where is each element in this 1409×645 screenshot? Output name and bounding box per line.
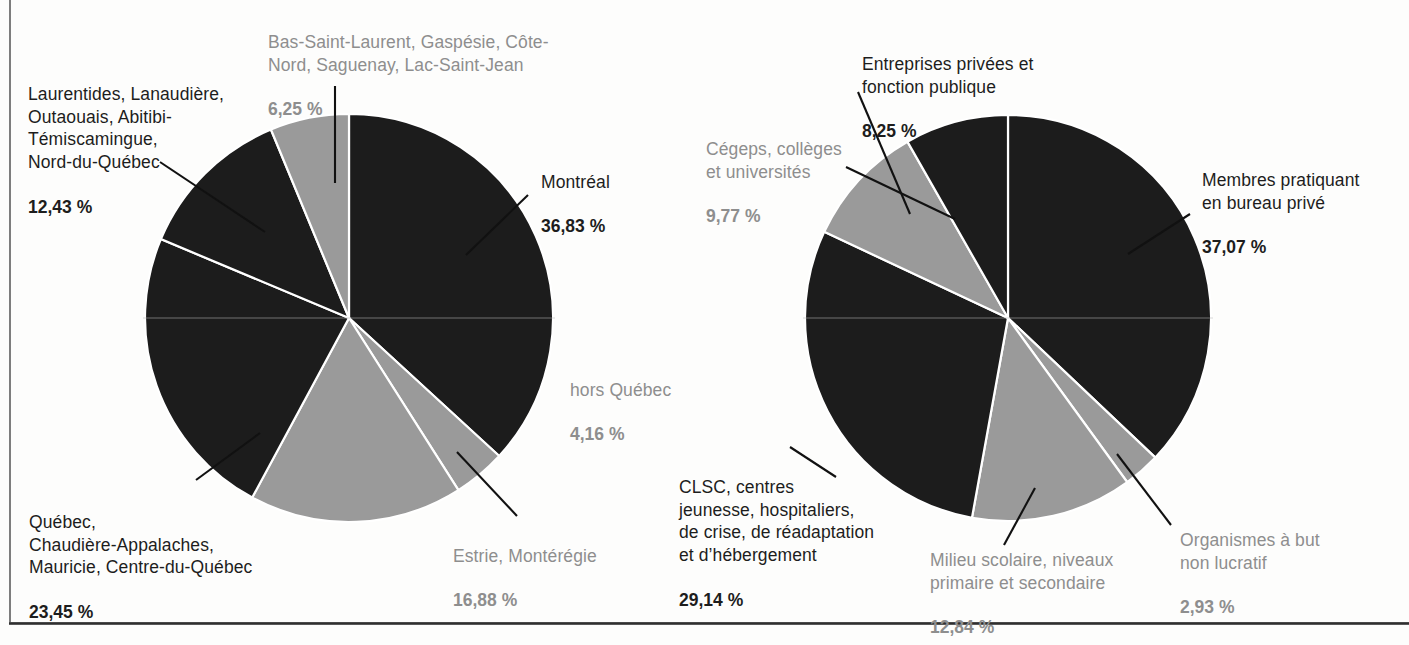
label-hors-quebec-pct: 4,16 %: [570, 423, 740, 446]
label-bas-saint-laurent-name: Bas-Saint-Laurent, Gaspésie, Côte- Nord,…: [268, 31, 588, 77]
label-estrie-name: Estrie, Montérégie: [453, 545, 683, 568]
label-cegeps: Cégeps, collèges et universités 9,77 %: [706, 117, 886, 249]
label-bureau-prive: Membres pratiquant en bureau privé 37,07…: [1202, 148, 1409, 280]
label-laurentides-name: Laurentides, Lanaudière, Outaouais, Abit…: [28, 83, 268, 174]
label-quebec-name: Québec, Chaudière-Appalaches, Mauricie, …: [29, 511, 359, 579]
label-hors-quebec-name: hors Québec: [570, 379, 740, 402]
label-laurentides: Laurentides, Lanaudière, Outaouais, Abit…: [28, 62, 268, 239]
label-clsc-pct: 29,14 %: [679, 589, 949, 612]
label-milieu-scolaire-pct: 12,84 %: [930, 616, 1175, 639]
label-entreprises: Entreprises privées et fonction publique…: [862, 32, 1122, 164]
label-estrie: Estrie, Montérégie 16,88 %: [453, 524, 683, 633]
label-entreprises-name: Entreprises privées et fonction publique: [862, 53, 1122, 99]
label-bas-saint-laurent: Bas-Saint-Laurent, Gaspésie, Côte- Nord,…: [268, 10, 588, 142]
label-cegeps-name: Cégeps, collèges et universités: [706, 138, 886, 184]
label-organismes-name: Organismes à but non lucratif: [1180, 529, 1395, 575]
label-bas-saint-laurent-pct: 6,25 %: [268, 98, 588, 121]
label-clsc-name: CLSC, centres jeunesse, hospitaliers, de…: [679, 476, 949, 567]
label-cegeps-pct: 9,77 %: [706, 205, 886, 228]
label-hors-quebec: hors Québec 4,16 %: [570, 358, 740, 467]
frame-left-rule: [9, 0, 11, 624]
label-clsc: CLSC, centres jeunesse, hospitaliers, de…: [679, 455, 949, 632]
label-milieu-scolaire-name: Milieu scolaire, niveaux primaire et sec…: [930, 549, 1175, 595]
label-milieu-scolaire: Milieu scolaire, niveaux primaire et sec…: [930, 528, 1175, 645]
label-montreal-name: Montréal: [541, 171, 711, 194]
label-quebec: Québec, Chaudière-Appalaches, Mauricie, …: [29, 490, 359, 644]
label-bureau-prive-pct: 37,07 %: [1202, 236, 1409, 259]
label-laurentides-pct: 12,43 %: [28, 196, 268, 219]
label-montreal: Montréal 36,83 %: [541, 150, 711, 259]
label-estrie-pct: 16,88 %: [453, 589, 683, 612]
label-quebec-pct: 23,45 %: [29, 601, 359, 624]
label-organismes: Organismes à but non lucratif 2,93 %: [1180, 508, 1395, 640]
label-organismes-pct: 2,93 %: [1180, 596, 1395, 619]
label-montreal-pct: 36,83 %: [541, 215, 711, 238]
label-entreprises-pct: 8,25 %: [862, 120, 1122, 143]
label-bureau-prive-name: Membres pratiquant en bureau privé: [1202, 169, 1409, 215]
